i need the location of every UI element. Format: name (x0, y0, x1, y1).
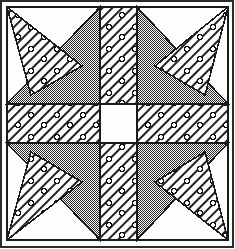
edge-bottom-center (100, 143, 137, 240)
quilt-block-figure: Quilt Block Pattern Eight-pointed star q… (0, 0, 235, 249)
light-rect-middle-left (7, 104, 100, 143)
light-rect-top-center (100, 7, 137, 104)
block-body (7, 7, 228, 240)
center-white-square-overlay (101, 105, 136, 142)
quilt-block-drawing (0, 0, 235, 249)
edge-middle-left (7, 104, 100, 143)
light-rect-middle-right (137, 104, 228, 143)
edge-top-center (100, 7, 137, 104)
light-rect-bottom-center (100, 143, 137, 240)
edge-middle-right (137, 104, 228, 143)
